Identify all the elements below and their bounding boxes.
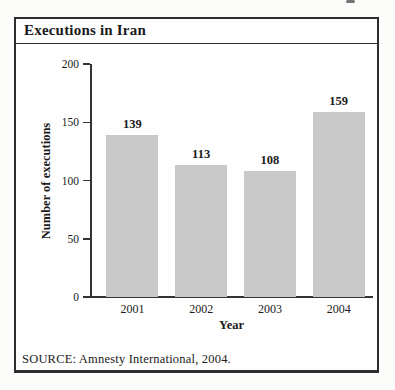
bar-value-label: 113 — [171, 147, 231, 161]
x-tick-label: 2001 — [102, 302, 162, 317]
bar-value-label: 108 — [240, 153, 300, 167]
y-tick-label: 50 — [43, 232, 79, 246]
x-tick-label: 2002 — [171, 302, 231, 317]
y-tick-label: 100 — [43, 174, 79, 188]
y-axis-ticks: 050100150200 — [43, 64, 90, 297]
bar-value-label: 159 — [309, 94, 369, 108]
y-tick-mark — [83, 238, 90, 240]
bar-2002 — [175, 165, 227, 297]
bar-2004 — [313, 112, 365, 297]
y-tick-mark — [83, 122, 90, 124]
page-edge-artifact — [346, 0, 355, 3]
x-tick-labels: 2001200220032004 — [90, 302, 373, 318]
y-tick-label: 200 — [43, 57, 79, 71]
y-tick-label: 150 — [43, 115, 79, 129]
plot-area: 139113108159 — [90, 64, 373, 297]
x-tick-label: 2004 — [309, 302, 369, 317]
y-tick-mark — [83, 296, 90, 298]
bar-value-label: 139 — [102, 117, 162, 131]
figure-title-row: Executions in Iran — [16, 19, 377, 44]
x-tick-label: 2003 — [240, 302, 300, 317]
figure-title: Executions in Iran — [24, 22, 146, 39]
figure-box: Executions in Iran Number of executions … — [14, 17, 379, 373]
bar-2003 — [244, 171, 296, 297]
x-axis-title: Year — [90, 318, 373, 333]
page: Executions in Iran Number of executions … — [0, 0, 395, 390]
bar-2001 — [106, 135, 158, 297]
y-tick-mark — [83, 180, 90, 182]
y-tick-mark — [83, 63, 90, 65]
y-tick-label: 0 — [43, 290, 79, 304]
source-note: SOURCE: Amnesty International, 2004. — [22, 352, 231, 367]
